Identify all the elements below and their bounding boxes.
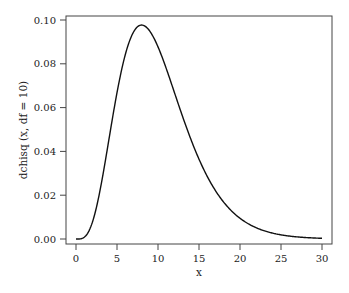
y-tick-label: 0.10	[34, 15, 56, 26]
y-tick-label: 0.02	[34, 190, 56, 201]
y-tick-label: 0.06	[34, 102, 56, 113]
y-tick-label: 0.08	[34, 58, 56, 69]
x-tick-label: 15	[193, 253, 206, 264]
x-tick-label: 0	[73, 253, 79, 264]
plot-frame	[66, 16, 332, 244]
density-curve	[76, 25, 322, 239]
x-tick-label: 30	[316, 253, 329, 264]
y-axis: 0.000.020.040.060.080.10	[34, 15, 66, 245]
chi-square-density-chart: 0.000.020.040.060.080.10 051015202530 x …	[0, 0, 349, 293]
x-axis: 051015202530	[73, 244, 329, 264]
x-tick-label: 25	[275, 253, 288, 264]
x-tick-label: 10	[152, 253, 165, 264]
x-tick-label: 5	[114, 253, 120, 264]
y-tick-label: 0.04	[34, 146, 56, 157]
x-axis-label: x	[196, 266, 202, 278]
y-tick-label: 0.00	[34, 234, 56, 245]
x-tick-label: 20	[234, 253, 247, 264]
y-axis-label: dchisq (x, df = 10)	[17, 81, 29, 179]
